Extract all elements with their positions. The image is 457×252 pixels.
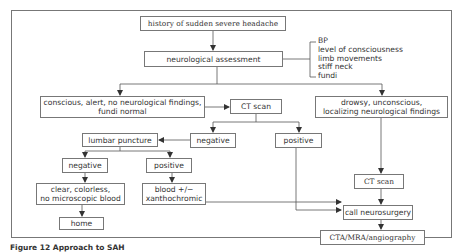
node-conscious-alert: conscious, alert, no neurological findin…	[40, 96, 205, 118]
node-angiography: CTA/MRA/angiography	[320, 230, 425, 245]
node-label: clear, colorless,	[51, 185, 110, 194]
node-label: negative	[196, 136, 229, 145]
node-label: CT scan	[241, 102, 271, 111]
node-label: positive	[284, 136, 314, 145]
node-label: call neurosurgery	[345, 208, 411, 217]
node-label: CTA/MRA/angiography	[329, 233, 415, 242]
node-label: no microscopic blood	[40, 194, 121, 203]
node-label: lumbar puncture	[88, 136, 151, 145]
node-lp-positive: positive	[146, 158, 192, 173]
node-blood-xanthochromic: blood +/− xanthochromic	[142, 183, 206, 205]
node-history-headache: history of sudden severe headache	[140, 16, 286, 31]
node-lumbar-puncture: lumbar puncture	[82, 133, 158, 147]
node-label: neurological assessment	[167, 55, 261, 64]
node-label: xanthochromic	[146, 194, 203, 203]
node-ct-positive: positive	[275, 133, 322, 148]
node-drowsy-unconscious: drowsy, unconscious, localizing neurolog…	[315, 96, 448, 118]
node-home: home	[59, 217, 104, 230]
node-neurological-assessment: neurological assessment	[144, 51, 283, 67]
node-call-neurosurgery: call neurosurgery	[343, 205, 413, 220]
node-label: localizing neurological findings	[323, 107, 440, 116]
assessment-item: fundi	[318, 72, 403, 81]
node-label: blood +/−	[155, 185, 194, 194]
node-label: CT scan	[364, 177, 394, 186]
node-label: conscious, alert, no neurological findin…	[44, 98, 202, 107]
node-ct-negative: negative	[190, 133, 236, 148]
figure-caption: Figure 12 Approach to SAH	[10, 243, 125, 252]
node-lp-negative: negative	[62, 158, 108, 173]
node-label: home	[71, 219, 93, 228]
node-label: negative	[68, 161, 101, 170]
node-label: history of sudden severe headache	[148, 19, 278, 28]
node-label: drowsy, unconscious,	[341, 98, 422, 107]
node-label: positive	[154, 161, 184, 170]
node-ct-scan-mid: CT scan	[230, 99, 282, 114]
node-label: fundi normal	[98, 107, 146, 116]
node-clear-colorless: clear, colorless, no microscopic blood	[36, 183, 125, 205]
assessment-items-list: BP level of consciousness limb movements…	[318, 37, 403, 81]
node-ct-scan-right: CT scan	[354, 174, 404, 189]
